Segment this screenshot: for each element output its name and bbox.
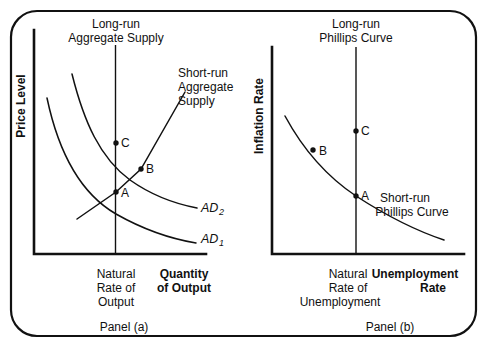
- panel-a-natural-rate-line2: Rate of: [97, 281, 136, 295]
- panel-b-natural-rate-line3: Unemployment: [300, 295, 381, 309]
- panel-a-caption: Panel (a): [100, 320, 149, 334]
- ad1-label: AD: [200, 232, 218, 246]
- panel-a-point-b-dot: [138, 166, 143, 171]
- lras-label-line1: Long-run: [92, 17, 140, 31]
- panel-a-x-axis-label-line2: of Output: [157, 281, 211, 295]
- panel-b-point-c-label: C: [361, 124, 370, 138]
- panel-b-axes: [272, 47, 464, 254]
- panel-b-point-a-label: A: [361, 189, 369, 203]
- panel-b-caption: Panel (b): [366, 320, 415, 334]
- ad1-subscript: 1: [219, 238, 224, 248]
- panel-a-natural-rate-line3: Output: [98, 295, 135, 309]
- panel-a-point-c-label: C: [121, 136, 130, 150]
- panel-b-natural-rate-line1: Natural: [329, 267, 368, 281]
- ad2-subscript: 2: [218, 207, 224, 217]
- lrpc-label-line1: Long-run: [332, 17, 380, 31]
- ad2-label: AD: [200, 201, 218, 215]
- panel-a-point-a-label: A: [121, 186, 129, 200]
- panel-b-x-axis-label-line1: Unemployment: [372, 267, 459, 281]
- panel-a-y-axis-label: Price Level: [14, 74, 28, 137]
- panel-a-point-c-dot: [113, 140, 118, 145]
- panel-a-point-a-dot: [113, 189, 118, 194]
- panel-b-y-axis-label: Inflation Rate: [252, 78, 266, 154]
- srpc-label-line1: Short-run: [380, 191, 430, 205]
- economics-figure: C B A Price Level Long-run Aggregate Sup…: [0, 0, 487, 351]
- panel-b-point-b-dot: [310, 147, 315, 152]
- panel-a: C B A Price Level Long-run Aggregate Sup…: [14, 17, 234, 334]
- panel-a-x-axis-label-line1: Quantity: [160, 267, 209, 281]
- lras-label-line2: Aggregate Supply: [68, 31, 163, 45]
- panel-b-point-c-dot: [353, 128, 358, 133]
- panel-b: C B A Inflation Rate Long-run Phillips C…: [252, 17, 464, 334]
- panel-a-point-b-label: B: [146, 162, 154, 176]
- panel-b-point-b-label: B: [319, 144, 327, 158]
- lrpc-label-line2: Phillips Curve: [319, 31, 393, 45]
- sras-label-line1: Short-run: [178, 66, 228, 80]
- panel-a-natural-rate-line1: Natural: [97, 267, 136, 281]
- figure-outer-border: [11, 11, 476, 336]
- srpc-label-line2: Phillips Curve: [375, 205, 449, 219]
- panel-b-point-a-dot: [353, 193, 358, 198]
- ad1-curve: [47, 98, 196, 243]
- panel-b-natural-rate-line2: Rate of: [329, 281, 368, 295]
- figure-canvas: C B A Price Level Long-run Aggregate Sup…: [0, 0, 487, 351]
- sras-label-line2: Aggregate: [178, 80, 234, 94]
- sras-label-line3: Supply: [178, 94, 215, 108]
- panel-b-x-axis-label-line2: Rate: [420, 281, 446, 295]
